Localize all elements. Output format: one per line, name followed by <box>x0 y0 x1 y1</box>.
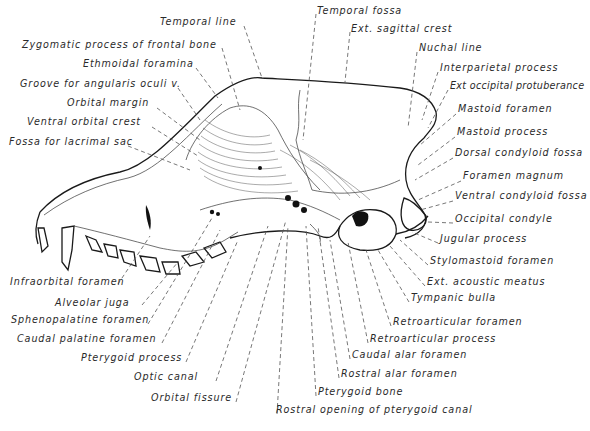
label-orbital-margin: Orbital margin <box>67 97 149 108</box>
label-retroarticular-foramen: Retroarticular foramen <box>393 316 523 327</box>
label-foramen-magnum: Foramen magnum <box>463 170 564 181</box>
label-groove-for-angularis-oculi-v: Groove for angularis oculi v. <box>20 78 181 89</box>
label-mastoid-process: Mastoid process <box>457 126 548 137</box>
label-optic-canal: Optic canal <box>134 371 198 382</box>
label-caudal-palatine-foramen: Caudal palatine foramen <box>17 333 156 344</box>
label-dorsal-condyloid-fossa: Dorsal condyloid fossa <box>455 147 583 158</box>
label-rostral-opening-of-pterygoid-canal: Rostral opening of pterygoid canal <box>276 404 472 415</box>
label-pterygoid-process: Pterygoid process <box>81 352 182 363</box>
label-jugular-process: Jugular process <box>440 233 527 244</box>
label-alveolar-juga: Alveolar juga <box>55 297 130 308</box>
label-ext-occipital-protuberance: Ext occipital protuberance <box>450 80 584 91</box>
label-nuchal-line: Nuchal line <box>419 42 482 53</box>
label-infraorbital-foramen: Infraorbital foramen <box>10 276 124 287</box>
label-tympanic-bulla: Tympanic bulla <box>411 292 496 303</box>
label-ventral-orbital-crest: Ventral orbital crest <box>27 116 141 127</box>
label-occipital-condyle: Occipital condyle <box>455 213 553 224</box>
skull-diagram: Temporal line Zygomatic process of front… <box>0 0 590 431</box>
label-mastoid-foramen: Mastoid foramen <box>458 103 553 114</box>
label-rostral-alar-foramen: Rostral alar foramen <box>341 368 458 379</box>
label-fossa-for-lacrimal-sac: Fossa for lacrimal sac <box>9 136 133 147</box>
label-interparietal-process: Interparietal process <box>440 62 558 73</box>
label-ext-acoustic-meatus: Ext. acoustic meatus <box>427 276 545 287</box>
label-pterygoid-bone: Pterygoid bone <box>318 386 403 397</box>
label-sphenopalatine-foramen: Sphenopalatine foramen <box>11 314 149 325</box>
label-caudal-alar-foramen: Caudal alar foramen <box>352 349 467 360</box>
label-ethmoidal-foramina: Ethmoidal foramina <box>83 58 194 69</box>
label-zygomatic-process-of-frontal-bone: Zygomatic process of frontal bone <box>22 39 217 50</box>
label-temporal-line: Temporal line <box>160 16 236 27</box>
label-stylomastoid-foramen: Stylomastoid foramen <box>430 255 554 266</box>
label-ext-sagittal-crest: Ext. sagittal crest <box>351 23 452 34</box>
label-orbital-fissure: Orbital fissure <box>151 392 232 403</box>
label-retroarticular-process: Retroarticular process <box>370 333 496 344</box>
label-temporal-fossa: Temporal fossa <box>317 5 402 16</box>
label-ventral-condyloid-fossa: Ventral condyloid fossa <box>455 190 587 201</box>
